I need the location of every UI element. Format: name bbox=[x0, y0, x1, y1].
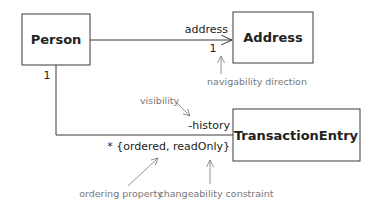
ordering-note: ordering property bbox=[79, 188, 163, 199]
ordering-pointer bbox=[128, 158, 158, 186]
class-transaction-entry[interactable]: TransactionEntry bbox=[233, 109, 360, 161]
role-address-label: address bbox=[185, 23, 228, 36]
changeability-note: changeability constraint bbox=[159, 188, 274, 199]
class-address[interactable]: Address bbox=[233, 12, 313, 63]
class-address-name: Address bbox=[243, 30, 303, 45]
class-transaction-entry-name: TransactionEntry bbox=[234, 128, 359, 143]
class-person-name: Person bbox=[31, 32, 82, 47]
role-history-label: -history bbox=[188, 119, 230, 132]
uml-diagram: Person Address TransactionEntry address … bbox=[0, 0, 375, 212]
navigability-note: navigability direction bbox=[207, 76, 307, 87]
class-person[interactable]: Person bbox=[22, 14, 90, 65]
multiplicity-address-label: 1 bbox=[210, 42, 217, 55]
multiplicity-person-label: 1 bbox=[44, 69, 51, 82]
constraint-label: * {ordered, readOnly} bbox=[107, 140, 230, 153]
visibility-pointer bbox=[176, 102, 190, 116]
visibility-note: visibility bbox=[140, 95, 180, 106]
